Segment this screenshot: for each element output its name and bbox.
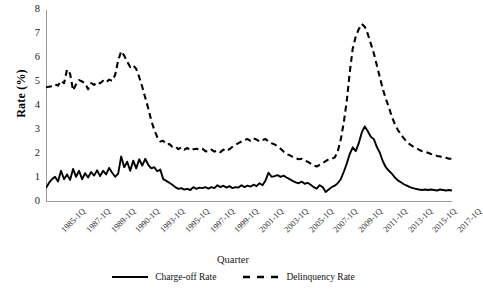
plot-area xyxy=(46,10,452,202)
y-tick-label: 8 xyxy=(22,3,40,14)
x-tick-label: 1997-1Q xyxy=(207,206,235,234)
y-tick-label: 0 xyxy=(22,195,40,206)
y-tick-label: 2 xyxy=(22,147,40,158)
y-tick-label: 4 xyxy=(22,99,40,110)
x-tick-label: 2009-1Q xyxy=(356,206,384,234)
x-tick-label: 1987-1Q xyxy=(84,206,112,234)
plot-svg xyxy=(46,10,452,202)
legend-label: Charge-off Rate xyxy=(155,272,216,282)
y-axis-title: Rate (%) xyxy=(14,54,29,134)
y-tick-label: 3 xyxy=(22,123,40,134)
x-tick-label: 2011-1Q xyxy=(381,206,409,234)
x-tick-label: 1999-1Q xyxy=(232,206,260,234)
x-tick-label: 2017-1Q xyxy=(455,206,483,234)
series-line-charge-off-rate xyxy=(46,126,452,192)
legend-label: Delinquency Rate xyxy=(286,272,354,282)
legend-dashed-line-icon xyxy=(242,273,280,281)
x-tick-label: 2001-1Q xyxy=(257,206,285,234)
legend-item: Charge-off Rate xyxy=(111,272,216,282)
series-layer xyxy=(46,24,452,192)
legend-item: Delinquency Rate xyxy=(242,272,354,282)
y-tick-label: 1 xyxy=(22,171,40,182)
x-tick-label: 1985-1Q xyxy=(59,206,87,234)
x-tick-label: 1995-1Q xyxy=(183,206,211,234)
x-axis-title: Quarter xyxy=(0,254,466,265)
y-tick-label: 6 xyxy=(22,51,40,62)
x-tick-label: 1990-1Q xyxy=(133,206,161,234)
x-tick-label: 1989-1Q xyxy=(108,206,136,234)
x-tick-label: 1993-1Q xyxy=(158,206,186,234)
y-tick-label: 7 xyxy=(22,27,40,38)
x-tick-label: 2007-1Q xyxy=(331,206,359,234)
x-tick-label: 2005-1Q xyxy=(306,206,334,234)
x-tick-label: 2003-1Q xyxy=(282,206,310,234)
y-tick-label: 5 xyxy=(22,75,40,86)
x-tick-label: 2013-1Q xyxy=(405,206,433,234)
x-tick-label: 2015-1Q xyxy=(430,206,458,234)
chart-legend: Charge-off RateDelinquency Rate xyxy=(0,272,466,282)
series-line-delinquency-rate xyxy=(46,24,452,167)
legend-solid-line-icon xyxy=(111,273,149,281)
